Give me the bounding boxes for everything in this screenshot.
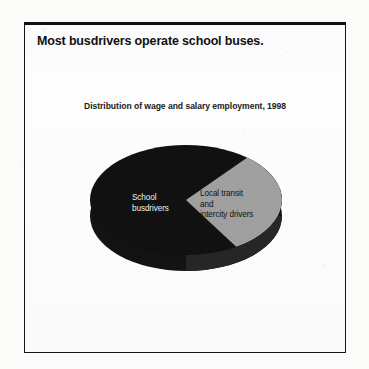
- pie-slice-label-local-transit: Local transit and intercity drivers: [200, 189, 253, 221]
- figure-headline: Most busdrivers operate school buses.: [37, 34, 263, 48]
- pie-slice-label-school-busdrivers: School busdrivers: [132, 193, 169, 214]
- chart-subtitle: Distribution of wage and salary employme…: [25, 101, 345, 111]
- figure-panel: Most busdrivers operate school buses. Di…: [24, 22, 346, 353]
- pie-chart: School busdrivers Local transit and inte…: [88, 137, 284, 287]
